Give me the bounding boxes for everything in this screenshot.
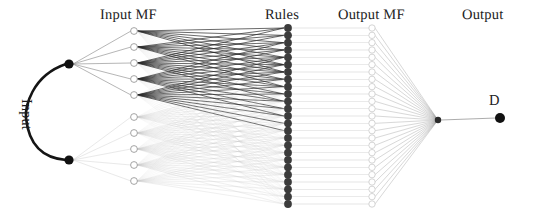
network-graph xyxy=(0,0,545,219)
nodes-output-mf xyxy=(369,25,375,207)
edge-aggregate-to-output xyxy=(441,118,496,120)
nodes-input xyxy=(64,59,73,164)
node-aggregate xyxy=(435,117,441,123)
nodes-rules xyxy=(284,24,292,208)
edges-inputmf-to-rules xyxy=(137,28,284,204)
column-label-output-mf: Output MF xyxy=(338,7,405,24)
edges-rules-to-outputmf xyxy=(292,28,369,204)
nodes-input-mf xyxy=(131,28,138,185)
edges-input-to-inputmf xyxy=(73,31,131,181)
input-brace-label: Input xyxy=(18,99,34,130)
diagram-canvas: Input MF Rules Output MF Output Input D xyxy=(0,0,545,219)
output-node-label: D xyxy=(489,92,499,109)
column-label-input-mf: Input MF xyxy=(100,7,157,24)
edges-outputmf-to-aggregate xyxy=(375,28,438,204)
node-output xyxy=(495,113,505,123)
column-label-rules: Rules xyxy=(265,7,299,24)
column-label-output: Output xyxy=(462,7,503,24)
